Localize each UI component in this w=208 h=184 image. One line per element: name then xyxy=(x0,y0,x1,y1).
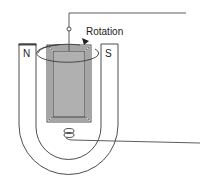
coil-core xyxy=(53,51,85,117)
south-pole-label: S xyxy=(105,48,112,59)
moving-coil-meter-diagram: N S Rotation xyxy=(0,0,208,184)
rotation-label: Rotation xyxy=(86,26,123,37)
north-pole-label: N xyxy=(23,48,30,59)
top-terminal-icon xyxy=(67,27,71,31)
bottom-lead-wire xyxy=(66,138,200,143)
rotation-arrow-icon xyxy=(82,38,89,45)
